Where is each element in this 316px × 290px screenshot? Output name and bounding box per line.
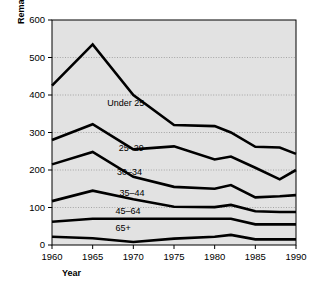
y-tick-label-500: 500 xyxy=(29,52,45,63)
x-tick-label-1965: 1965 xyxy=(82,251,103,262)
y-axis-ticks-group: 0100200300400500600 xyxy=(29,14,52,250)
x-tick-label-1985: 1985 xyxy=(245,251,266,262)
series-label-under-25: Under 25 xyxy=(107,98,144,108)
x-tick-label-1990: 1990 xyxy=(285,251,306,262)
series-label-65: 65+ xyxy=(115,223,130,233)
x-tick-label-1975: 1975 xyxy=(163,251,184,262)
remarriage-rate-figure: 0100200300400500600 19601965197019751980… xyxy=(0,0,316,290)
y-tick-label-200: 200 xyxy=(29,164,45,175)
series-label-30-34: 30–34 xyxy=(117,167,142,177)
y-tick-label-600: 600 xyxy=(29,14,45,25)
y-tick-label-400: 400 xyxy=(29,89,45,100)
series-label-35-44: 35–44 xyxy=(120,188,145,198)
x-axis-ticks-group: 1960196519701975198019851990 xyxy=(41,245,306,262)
remarriage-rate-line-chart: 0100200300400500600 19601965197019751980… xyxy=(0,0,316,290)
series-label-25-29: 25–29 xyxy=(119,143,144,153)
x-tick-label-1970: 1970 xyxy=(123,251,144,262)
y-tick-label-300: 300 xyxy=(29,127,45,138)
x-axis-title: Year xyxy=(62,268,82,278)
series-label-45-64: 45–64 xyxy=(115,206,140,216)
y-tick-label-0: 0 xyxy=(40,239,45,250)
y-axis-title: Remarriage rate xyxy=(16,0,26,24)
y-tick-label-100: 100 xyxy=(29,202,45,213)
x-tick-label-1960: 1960 xyxy=(41,251,62,262)
x-tick-label-1980: 1980 xyxy=(204,251,225,262)
